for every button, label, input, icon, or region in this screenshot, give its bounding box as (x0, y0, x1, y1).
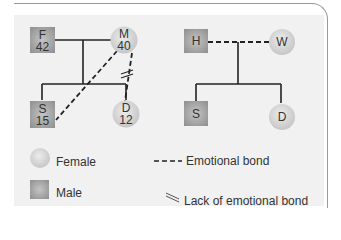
legend-lack-bond-icon-1 (166, 193, 179, 199)
son-age: 15 (30, 115, 55, 127)
son-label-right: S (184, 108, 208, 120)
lack-bond-mark-2 (121, 74, 133, 78)
daughter-label: D 12 (112, 102, 140, 126)
mother-age: 40 (110, 40, 138, 52)
emotional-bond-line-m-s (56, 51, 117, 120)
son-label: S 15 (30, 103, 55, 127)
legend-female-icon (30, 148, 50, 168)
mother-label: M 40 (110, 28, 138, 52)
lack-bond-line-m-d (125, 53, 132, 101)
husband-label: H (184, 35, 208, 47)
legend-male-label: Male (56, 187, 82, 199)
lack-bond-mark-1 (121, 70, 133, 74)
father-label: F 42 (30, 29, 55, 53)
legend-lack-bond-label: Lack of emotional bond (184, 195, 308, 207)
right-family-lines (196, 42, 281, 103)
father-age: 42 (30, 41, 55, 53)
daughter-age: 12 (112, 114, 140, 126)
legend-female-label: Female (56, 156, 96, 168)
wife-label: W (269, 36, 295, 48)
legend-male-icon (30, 180, 49, 199)
legend-emotional-bond-label: Emotional bond (186, 155, 269, 167)
daughter-label-right: D (269, 111, 295, 123)
legend-lack-bond-icon-2 (166, 196, 179, 202)
